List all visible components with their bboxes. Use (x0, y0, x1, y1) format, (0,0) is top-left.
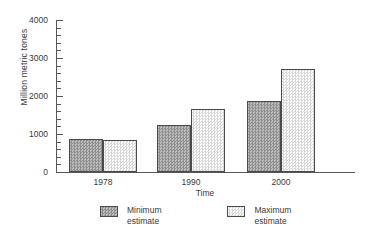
chart-legend: Minimum estimateMaximum estimate (56, 205, 356, 226)
y-tick-major (57, 58, 63, 59)
y-tick-minor (57, 119, 61, 120)
legend-label: Maximum estimate (254, 205, 291, 226)
x-tick-label: 1990 (151, 177, 231, 187)
y-tick-minor (57, 66, 61, 67)
legend-entry: Maximum estimate (227, 205, 291, 226)
legend-label: Minimum estimate (127, 205, 161, 226)
y-tick-label: 3000 (14, 53, 48, 63)
y-tick-minor (57, 164, 61, 165)
bar-chart: Million metric tones 01000200030004000 1… (0, 0, 370, 241)
y-tick-minor (57, 35, 61, 36)
y-tick-minor (57, 88, 61, 89)
y-tick-major (57, 134, 63, 135)
y-tick-minor (57, 126, 61, 127)
y-tick-minor (57, 104, 61, 105)
y-tick-minor (57, 142, 61, 143)
y-axis-tick-labels: 01000200030004000 (14, 0, 48, 241)
bar-min (157, 125, 191, 173)
y-tick-minor (57, 73, 61, 74)
bar-group (247, 69, 315, 172)
y-tick-minor (57, 111, 61, 112)
y-tick-minor (57, 81, 61, 82)
bar-max (191, 109, 225, 172)
bar-group (157, 109, 225, 172)
y-tick-label: 0 (14, 167, 48, 177)
legend-entry: Minimum estimate (100, 205, 161, 226)
bar-max (281, 69, 315, 172)
plot-area: 197819902000 (56, 20, 355, 173)
y-tick-minor (57, 43, 61, 44)
bar-min (247, 101, 281, 172)
y-tick-major (57, 20, 63, 21)
legend-swatch-min (100, 206, 118, 217)
y-tick-minor (57, 149, 61, 150)
y-tick-label: 2000 (14, 91, 48, 101)
y-tick-major (57, 96, 63, 97)
x-tick-label: 2000 (241, 177, 321, 187)
bar-group (69, 139, 137, 172)
bar-max (103, 140, 137, 172)
bar-min (69, 139, 103, 172)
y-tick-label: 1000 (14, 129, 48, 139)
y-tick-minor (57, 157, 61, 158)
legend-swatch-max (227, 206, 245, 217)
y-tick-minor (57, 28, 61, 29)
y-tick-label: 4000 (14, 15, 48, 25)
y-tick-minor (57, 50, 61, 51)
x-tick-label: 1978 (63, 177, 143, 187)
y-tick-major (57, 172, 63, 173)
x-axis-title: Time (56, 188, 354, 198)
